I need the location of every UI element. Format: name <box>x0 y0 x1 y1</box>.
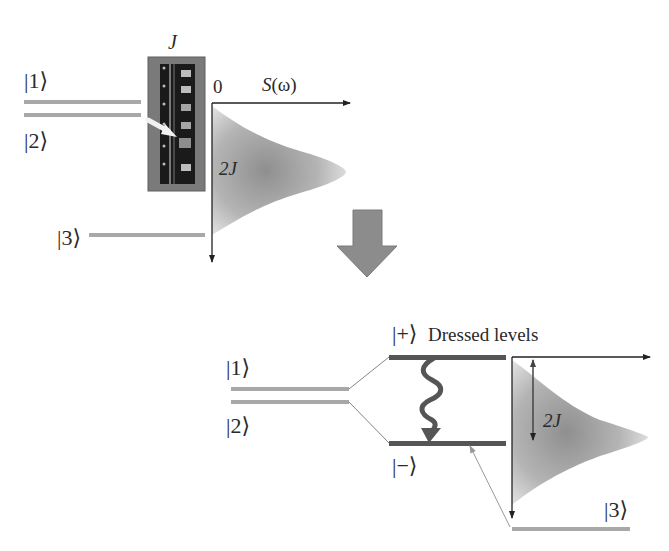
bottom-level-2-line <box>231 400 349 404</box>
dressed-level-minus <box>389 441 506 446</box>
level-1-line <box>24 100 141 104</box>
width-label-2J: 2J <box>219 158 239 179</box>
split-line-lower <box>349 402 389 443</box>
down-arrow-icon <box>337 210 397 277</box>
bottom-state-label-3: |3⟩ <box>604 497 628 522</box>
axis-origin-label: 0 <box>213 76 223 97</box>
state-label-plus: |+⟩ <box>392 321 417 346</box>
coupling-label: J <box>168 31 178 53</box>
state-label-3: |3⟩ <box>57 225 81 250</box>
top-panel: |1⟩ |2⟩ |3⟩ J <box>24 31 350 262</box>
state-label-minus: |−⟩ <box>392 453 417 478</box>
bottom-panel: |1⟩ |2⟩ |+⟩ Dressed levels |−⟩ 2J |3⟩ <box>226 321 650 531</box>
level-3-connector <box>470 446 510 527</box>
dressed-level-plus <box>389 355 506 360</box>
bottom-level-3-line <box>512 527 630 531</box>
chip-image <box>148 57 205 191</box>
energy-level-diagram: |1⟩ |2⟩ |3⟩ J <box>0 0 669 551</box>
bottom-width-label-2J: 2J <box>543 410 563 431</box>
bottom-level-1-line <box>231 387 349 391</box>
state-label-2: |2⟩ <box>24 128 48 153</box>
split-line-upper <box>349 357 389 389</box>
wavy-decay-arrow-icon <box>422 358 441 432</box>
state-label-1: |1⟩ <box>24 68 48 93</box>
wavy-arrow-head <box>421 428 441 443</box>
dressed-levels-title: Dressed levels <box>428 324 538 345</box>
bottom-state-label-1: |1⟩ <box>226 355 250 380</box>
bottom-state-label-2: |2⟩ <box>226 413 250 438</box>
axis-label-spectral: S(ω) <box>262 74 297 96</box>
level-3-line <box>89 233 205 237</box>
level-2-line <box>24 113 141 117</box>
